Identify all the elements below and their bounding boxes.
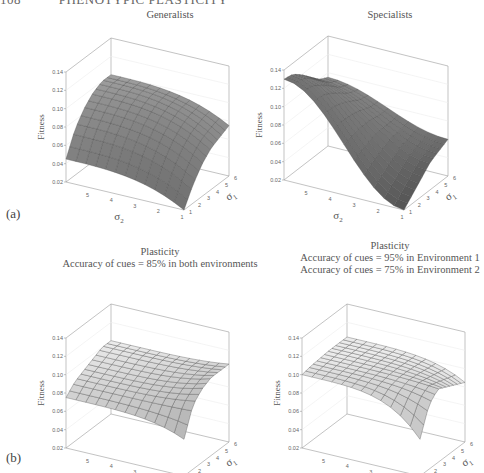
- z-axis-label: Fitness: [36, 114, 46, 140]
- z-tick-label: 0.12: [52, 87, 63, 93]
- fitness-surface: [66, 75, 229, 210]
- y-tick-label: 3: [443, 461, 446, 467]
- y-axis-label: σ1: [442, 187, 459, 205]
- z-tick-label: 0.02: [288, 445, 299, 451]
- x-tick-label: 2: [376, 208, 379, 214]
- z-axis-label: Fitness: [254, 112, 264, 138]
- y-tick-label: 6: [234, 175, 237, 181]
- surface-plot-plasticity-85: 0.020.040.060.080.100.120.1454321123456F…: [0, 270, 240, 473]
- z-tick-label: 0.04: [288, 427, 299, 433]
- x-tick-label: 1: [400, 214, 403, 220]
- fitness-surface: [66, 341, 229, 440]
- y-axis-label: σ1: [223, 187, 240, 205]
- y-tick-label: 1: [409, 209, 412, 215]
- y-tick-label: 2: [434, 468, 437, 473]
- z-tick-label: 0.14: [52, 69, 63, 75]
- panel-title-specialists: Specialists: [320, 9, 460, 21]
- z-tick-label: 0.12: [288, 353, 299, 359]
- x-tick-label: 5: [304, 190, 307, 196]
- z-tick-label: 0.12: [270, 85, 281, 91]
- y-tick-label: 5: [225, 182, 228, 188]
- y-tick-label: 6: [234, 441, 237, 447]
- z-tick-label: 0.14: [52, 335, 63, 341]
- y-tick-label: 5: [461, 448, 464, 454]
- y-tick-label: 2: [198, 468, 201, 473]
- title-line: Accuracy of cues = 85% in both environme…: [60, 258, 260, 270]
- z-tick-label: 0.14: [270, 67, 281, 73]
- z-tick-label: 0.08: [288, 390, 299, 396]
- z-tick-label: 0.02: [52, 445, 63, 451]
- y-tick-label: 5: [225, 448, 228, 454]
- z-tick-label: 0.10: [52, 372, 63, 378]
- y-tick-label: 1: [189, 209, 192, 215]
- title-line: Plasticity: [60, 246, 260, 258]
- z-tick-label: 0.06: [288, 408, 299, 414]
- panel-title-generalists: Generalists: [100, 9, 240, 21]
- fitness-surface: [302, 337, 465, 439]
- z-tick-label: 0.06: [52, 408, 63, 414]
- page-number: 108: [0, 0, 21, 7]
- x-tick-label: 1: [180, 214, 183, 220]
- x-tick-label: 5: [86, 458, 89, 464]
- x-tick-label: 5: [322, 458, 325, 464]
- z-tick-label: 0.02: [52, 179, 63, 185]
- y-tick-label: 3: [207, 195, 210, 201]
- x-axis-label: σ2: [114, 210, 124, 225]
- y-tick-label: 4: [435, 189, 438, 195]
- y-tick-label: 4: [216, 455, 219, 461]
- y-axis-label: σ1: [459, 453, 476, 471]
- y-tick-label: 5: [444, 182, 447, 188]
- x-tick-label: 2: [157, 208, 160, 214]
- title-line: Plasticity: [295, 240, 484, 252]
- y-tick-label: 4: [452, 455, 455, 461]
- z-tick-label: 0.10: [52, 106, 63, 112]
- title-line: Generalists: [100, 9, 240, 21]
- z-tick-label: 0.08: [270, 122, 281, 128]
- y-tick-label: 3: [427, 195, 430, 201]
- x-tick-label: 3: [352, 202, 355, 208]
- z-tick-label: 0.06: [52, 142, 63, 148]
- title-line: Accuracy of cues = 95% in Environment 1: [295, 252, 484, 264]
- y-tick-label: 3: [207, 461, 210, 467]
- x-tick-label: 4: [346, 463, 349, 469]
- running-title: PHENOTYPIC PLASTICITY: [59, 0, 228, 7]
- y-tick-label: 4: [216, 189, 219, 195]
- z-tick-label: 0.04: [52, 427, 63, 433]
- surface-plot-generalists: 0.020.040.060.080.100.120.1454321123456F…: [0, 30, 240, 230]
- surface-plot-plasticity-95-75: 0.020.040.060.080.100.120.1454321123456F…: [240, 270, 479, 473]
- z-tick-label: 0.14: [288, 335, 299, 341]
- x-axis-label: σ2: [333, 209, 343, 224]
- fitness-surface: [284, 74, 448, 210]
- x-tick-label: 3: [133, 469, 136, 473]
- y-tick-label: 6: [470, 441, 473, 447]
- z-axis-label: Fitness: [36, 380, 46, 406]
- y-tick-label: 2: [198, 202, 201, 208]
- x-tick-label: 3: [133, 203, 136, 209]
- title-line: Specialists: [320, 9, 460, 21]
- z-tick-label: 0.06: [270, 140, 281, 146]
- z-tick-label: 0.08: [52, 390, 63, 396]
- z-tick-label: 0.08: [52, 124, 63, 130]
- x-tick-label: 5: [86, 192, 89, 198]
- page-header: 108 PHENOTYPIC PLASTICITY: [0, 0, 228, 8]
- y-tick-label: 6: [453, 175, 456, 181]
- x-tick-label: 4: [110, 463, 113, 469]
- z-tick-label: 0.10: [288, 372, 299, 378]
- z-tick-label: 0.12: [52, 353, 63, 359]
- z-axis-label: Fitness: [272, 380, 282, 406]
- surface-plot-specialists: 0.020.040.060.080.100.120.1454321123456F…: [240, 30, 479, 230]
- panel-title-plasticity-85: Plasticity Accuracy of cues = 85% in bot…: [60, 246, 260, 270]
- x-tick-label: 3: [369, 469, 372, 473]
- z-tick-label: 0.04: [270, 159, 281, 165]
- z-tick-label: 0.10: [270, 104, 281, 110]
- y-axis-label: σ1: [223, 453, 240, 471]
- z-tick-label: 0.02: [270, 177, 281, 183]
- z-tick-label: 0.04: [52, 161, 63, 167]
- y-tick-label: 2: [418, 202, 421, 208]
- x-tick-label: 4: [328, 196, 331, 202]
- x-tick-label: 4: [110, 197, 113, 203]
